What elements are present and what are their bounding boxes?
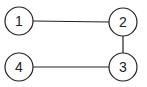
node-2: 2 [109, 8, 137, 36]
node-4-label: 4 [15, 59, 23, 75]
graph-diagram: 1 2 3 4 [0, 0, 147, 87]
edge-1-2 [33, 21, 109, 22]
node-1: 1 [5, 7, 33, 35]
node-1-label: 1 [15, 13, 23, 29]
node-3-label: 3 [119, 59, 127, 75]
node-4: 4 [5, 53, 33, 81]
node-3: 3 [109, 53, 137, 81]
node-2-label: 2 [119, 14, 127, 30]
